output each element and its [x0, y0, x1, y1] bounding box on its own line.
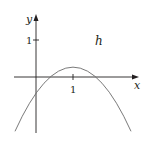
- x-tick-label: 1: [70, 84, 76, 95]
- x-axis-label: x: [134, 79, 141, 92]
- function-label: h: [95, 34, 103, 48]
- y-axis-arrow-icon: [34, 14, 39, 21]
- graph-of-h: x y 1 1 h: [0, 0, 145, 148]
- y-tick-label: 1: [26, 35, 32, 46]
- y-axis-label: y: [25, 13, 33, 26]
